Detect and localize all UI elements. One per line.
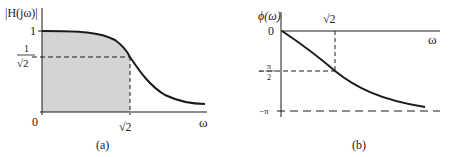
y-tick-half-pi-num: π bbox=[267, 62, 271, 71]
shaded-area bbox=[42, 31, 130, 112]
xlabel-b: ω bbox=[428, 32, 437, 47]
panel-a: |H(jω)| 1 1 √2 0 √2 ω (a) bbox=[5, 6, 208, 152]
y-tick-half-den: √2 bbox=[17, 57, 29, 69]
origin-label: 0 bbox=[32, 115, 38, 129]
y-tick-zero: 0 bbox=[268, 24, 274, 38]
panel-b: ϕ(ω) 0 √2 ω − π 2 −π (b) bbox=[258, 9, 440, 152]
y-tick-half-pi-sign: − bbox=[258, 66, 263, 76]
y-tick-half-pi-den: 2 bbox=[267, 73, 271, 82]
caption-a: (a) bbox=[96, 138, 109, 152]
xlabel-a: ω bbox=[199, 115, 208, 130]
y-tick-half-num: 1 bbox=[24, 43, 29, 54]
x-tick-sqrt2-a: √2 bbox=[119, 120, 132, 134]
figure: |H(jω)| 1 1 √2 0 √2 ω (a) ϕ(ω) 0 √2 ω − … bbox=[0, 0, 450, 157]
ylabel-b: ϕ(ω) bbox=[258, 9, 281, 23]
y-tick-pi: −π bbox=[259, 106, 269, 116]
caption-b: (b) bbox=[352, 138, 366, 152]
ylabel-a: |H(jω)| bbox=[5, 6, 38, 20]
x-tick-sqrt2-b: √2 bbox=[323, 12, 336, 26]
phase-curve bbox=[282, 31, 425, 107]
y-tick-one: 1 bbox=[30, 24, 36, 38]
